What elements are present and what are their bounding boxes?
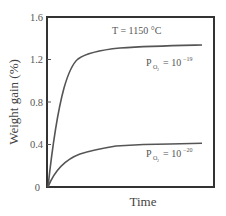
temperature-annotation: T = 1150 °C [112, 25, 162, 36]
weight-gain-chart: 1.6 1.2 0.8 0.4 0 Weight gain (%) Time T… [0, 0, 226, 216]
svg-text:P: P [146, 148, 152, 159]
svg-text:−19: −19 [183, 56, 192, 62]
svg-text:= 10: = 10 [163, 148, 181, 159]
y-tick-1.2: 1.2 [30, 54, 43, 65]
x-axis-label: Time [130, 194, 157, 209]
y-tick-1.6: 1.6 [30, 12, 43, 23]
label-po2-1e-20: P O 2 = 10 −20 [146, 147, 192, 163]
svg-text:2: 2 [157, 67, 159, 72]
svg-text:2: 2 [157, 158, 159, 163]
y-tick-0.4: 0.4 [30, 139, 44, 150]
plot-frame [47, 17, 214, 187]
svg-text:−20: −20 [183, 147, 192, 153]
y-tick-0: 0 [35, 182, 40, 193]
y-tick-0.8: 0.8 [30, 97, 43, 108]
label-po2-1e-19: P O 2 = 10 −19 [146, 56, 192, 72]
svg-text:P: P [146, 57, 152, 68]
svg-text:= 10: = 10 [163, 57, 181, 68]
y-axis-label: Weight gain (%) [6, 59, 21, 145]
